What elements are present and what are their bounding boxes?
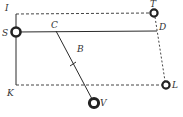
segment-i-t <box>16 13 150 14</box>
label-l: L <box>171 80 178 90</box>
point-t-marker <box>150 9 157 16</box>
label-v: V <box>100 98 108 108</box>
label-c: C <box>51 20 58 30</box>
point-v-marker <box>89 98 98 107</box>
label-d: D <box>158 22 166 32</box>
geometry-diagram: I T S C D B K L V <box>0 0 183 117</box>
label-k: K <box>6 88 15 98</box>
point-l-marker <box>162 81 169 88</box>
point-s-marker <box>12 28 21 37</box>
segment-s-d <box>15 31 157 32</box>
label-b: B <box>76 44 84 54</box>
label-i: I <box>4 3 9 13</box>
segment-c-v <box>56 31 92 99</box>
label-t: T <box>150 0 157 9</box>
label-s: S <box>2 28 8 38</box>
